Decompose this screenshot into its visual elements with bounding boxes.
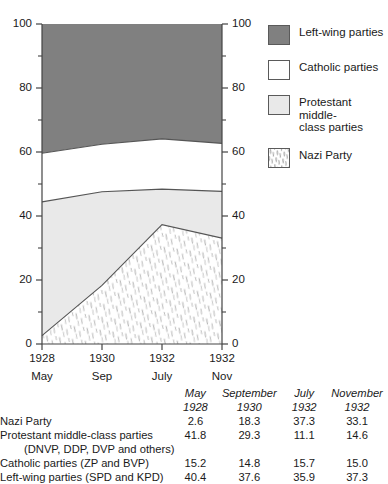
x-tick-1932-july: 1932 July: [134, 352, 190, 383]
x-tick-month: July: [134, 370, 190, 383]
x-tick-year: 1932: [134, 352, 190, 365]
cell-nazi-1930: 18.3: [216, 414, 282, 428]
chart-area: 100 80 60 40 20 0 100 80 60 40 20 0 1928…: [0, 0, 388, 388]
table-row: Protestant middle-class parties 41.8 29.…: [0, 428, 388, 442]
legend-swatch-nazi-icon: [268, 148, 290, 168]
cell-protestant-1932-july: 11.1: [282, 428, 326, 442]
x-axis-ticks: [42, 344, 222, 350]
cell-leftwing-1932-nov: 37.3: [326, 470, 388, 484]
y-axis-right-minor-ticks: [222, 56, 226, 312]
table-row: Left-wing parties (SPD and KPD) 40.4 37.…: [0, 470, 388, 484]
col-header-month-may: May: [174, 386, 216, 400]
legend-item-left-wing-parties: Left-wing parties: [268, 24, 388, 45]
x-tick-year: 1928: [14, 352, 70, 365]
y-tick-right-100: 100: [232, 18, 258, 30]
y-tick-right-80: 80: [232, 82, 258, 94]
results-table: May September July November 1928 1930 19…: [0, 386, 388, 484]
col-header-month-september: September: [216, 386, 282, 400]
table-row: Nazi Party 2.6 18.3 37.3 33.1: [0, 414, 388, 428]
x-tick-year: 1930: [74, 352, 130, 365]
y-tick-left-60: 60: [6, 146, 32, 158]
cell-empty-4: [326, 442, 388, 456]
legend-item-catholic-parties: Catholic parties: [268, 59, 388, 80]
table-corner-spacer: [0, 386, 174, 400]
cell-nazi-1928: 2.6: [174, 414, 216, 428]
legend-item-protestant-middle-class-parties: Protestant middle- class parties: [268, 94, 388, 134]
cell-protestant-1930: 29.3: [216, 428, 282, 442]
col-header-month-july: July: [282, 386, 326, 400]
cell-empty-2: [216, 442, 282, 456]
legend-label-protestant: Protestant middle- class parties: [299, 94, 388, 134]
col-header-year-1928: 1928: [174, 400, 216, 414]
table-header-years: 1928 1930 1932 1932: [0, 400, 388, 414]
cell-catholic-1932-july: 15.7: [282, 456, 326, 470]
y-tick-right-0: 0: [232, 338, 258, 350]
y-tick-left-80: 80: [6, 82, 32, 94]
col-header-year-1930: 1930: [216, 400, 282, 414]
cell-leftwing-1932-july: 35.9: [282, 470, 326, 484]
cell-nazi-1932-july: 37.3: [282, 414, 326, 428]
legend-swatch-catholic-icon: [268, 60, 290, 80]
cell-catholic-1928: 15.2: [174, 456, 216, 470]
legend-label-nazi: Nazi Party: [299, 147, 352, 162]
x-tick-month: Sep: [74, 370, 130, 383]
legend-swatch-protestant-icon: [268, 95, 290, 115]
x-tick-month: May: [14, 370, 70, 383]
col-header-year-1932-nov: 1932: [326, 400, 388, 414]
y-tick-left-100: 100: [6, 18, 32, 30]
cell-nazi-1932-nov: 33.1: [326, 414, 388, 428]
table-row: Catholic parties (ZP and BVP) 15.2 14.8 …: [0, 456, 388, 470]
row-label-catholic-parties: Catholic parties (ZP and BVP): [0, 456, 174, 470]
cell-catholic-1932-nov: 15.0: [326, 456, 388, 470]
area-left-wing-parties: [42, 24, 222, 153]
cell-empty-1: [174, 442, 216, 456]
table-corner-spacer-2: [0, 400, 174, 414]
legend-label-catholic: Catholic parties: [299, 59, 378, 74]
table-header-months: May September July November: [0, 386, 388, 400]
y-tick-left-0: 0: [6, 338, 32, 350]
y-tick-right-40: 40: [232, 210, 258, 222]
cell-protestant-1932-nov: 14.6: [326, 428, 388, 442]
chart-legend: Left-wing parties Catholic parties Prote…: [268, 24, 388, 182]
legend-swatch-left-wing-icon: [268, 25, 290, 45]
x-tick-1932-nov: 1932 Nov: [194, 352, 250, 383]
table-row-subtitle: (DNVP, DDP, DVP and others): [0, 442, 388, 456]
col-header-year-1932-july: 1932: [282, 400, 326, 414]
x-tick-year: 1932: [194, 352, 250, 365]
row-label-protestant-parties: Protestant middle-class parties: [0, 428, 174, 442]
cell-leftwing-1930: 37.6: [216, 470, 282, 484]
y-tick-left-20: 20: [6, 274, 32, 286]
row-label-left-wing-parties: Left-wing parties (SPD and KPD): [0, 470, 174, 484]
x-tick-1928-may: 1928 May: [14, 352, 70, 383]
legend-label-protestant-line1: Protestant middle-: [299, 96, 351, 121]
row-label-protestant-parties-detail: (DNVP, DDP, DVP and others): [0, 442, 174, 456]
legend-item-nazi-party: Nazi Party: [268, 147, 388, 168]
y-tick-left-40: 40: [6, 210, 32, 222]
x-tick-1930-sep: 1930 Sep: [74, 352, 130, 383]
y-tick-right-60: 60: [232, 146, 258, 158]
legend-label-left-wing: Left-wing parties: [299, 24, 383, 39]
cell-empty-3: [282, 442, 326, 456]
row-label-nazi-party: Nazi Party: [0, 414, 174, 428]
election-results-table: May September July November 1928 1930 19…: [0, 386, 388, 484]
cell-leftwing-1928: 40.4: [174, 470, 216, 484]
y-tick-right-20: 20: [232, 274, 258, 286]
legend-label-protestant-line2: class parties: [299, 121, 363, 133]
cell-protestant-1928: 41.8: [174, 428, 216, 442]
col-header-month-november: November: [326, 386, 388, 400]
x-tick-month: Nov: [194, 370, 250, 383]
cell-catholic-1930: 14.8: [216, 456, 282, 470]
